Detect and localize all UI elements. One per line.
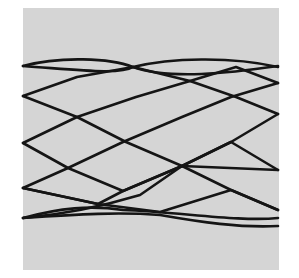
trace-path xyxy=(23,188,278,212)
trace-path xyxy=(23,67,278,117)
trace-path xyxy=(23,67,278,114)
trace-lattice xyxy=(0,0,299,278)
trace-path xyxy=(23,59,278,67)
trace-path xyxy=(23,214,278,227)
